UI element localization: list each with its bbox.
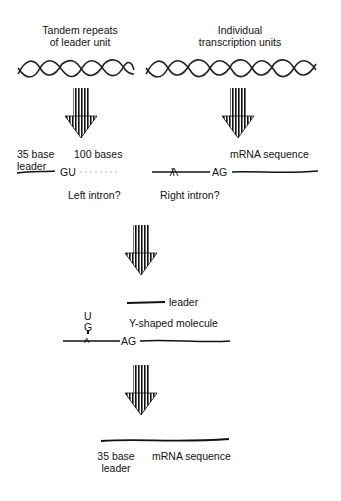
label-35-base-leader: 35 base leader bbox=[17, 148, 54, 172]
arrow-down-middle bbox=[125, 225, 157, 275]
label-gu: GU bbox=[60, 166, 76, 178]
label-final-35-base-leader: 35 base leader bbox=[96, 450, 136, 474]
label-y-shaped-molecule: Y-shaped molecule bbox=[129, 317, 218, 329]
title-individual-units: Individual transcription units bbox=[190, 24, 290, 48]
label-mrna-sequence: mRNA sequence bbox=[230, 148, 309, 160]
arrow-down-right bbox=[222, 88, 254, 138]
label-ag: AG bbox=[212, 166, 227, 178]
label-a: A bbox=[84, 335, 89, 347]
dna-helix-right bbox=[146, 60, 316, 77]
label-g: G bbox=[84, 321, 92, 333]
label-final-mrna-sequence: mRNA sequence bbox=[152, 450, 231, 462]
title-tandem-repeats: Tandem repeats of leader unit bbox=[30, 24, 130, 48]
mrna-line bbox=[232, 171, 318, 172]
label-100-bases: 100 bases bbox=[74, 148, 122, 160]
dna-helix-left bbox=[18, 60, 134, 77]
label-right-intron: Right intron? bbox=[160, 189, 220, 201]
y-molecule-mrna bbox=[140, 340, 230, 341]
label-ag-y: AG bbox=[121, 335, 136, 347]
diagram-graphics bbox=[0, 0, 341, 501]
leader-segment bbox=[127, 302, 165, 303]
label-left-intron: Left intron? bbox=[68, 189, 121, 201]
final-mrna-line bbox=[101, 439, 229, 441]
arrow-down-bottom bbox=[125, 365, 157, 415]
label-leader: leader bbox=[169, 296, 198, 308]
arrow-down-left bbox=[65, 88, 97, 138]
